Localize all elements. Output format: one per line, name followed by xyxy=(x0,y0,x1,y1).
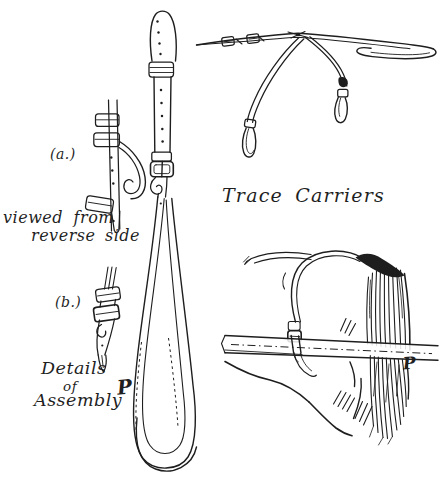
carrier-strap-right xyxy=(306,37,348,123)
long-loop xyxy=(134,197,197,471)
backband-strap xyxy=(197,32,436,59)
buckle xyxy=(151,162,174,177)
tail-upper xyxy=(356,254,410,350)
punch-holes xyxy=(160,89,164,143)
knot xyxy=(338,77,347,87)
folded-loop xyxy=(119,142,145,199)
label-detail-a: (a.) xyxy=(50,147,76,162)
keeper xyxy=(247,34,260,44)
carrier-strap-arch xyxy=(244,251,364,342)
illustration-page: (a.) viewed from reverse side (b.) Detai… xyxy=(0,0,439,480)
keeper xyxy=(96,114,120,127)
carrier-loop xyxy=(335,98,348,123)
keeper xyxy=(94,133,120,147)
figure-title: Trace Carriers xyxy=(222,186,385,206)
strap-end-loop xyxy=(357,48,436,59)
punch-holes xyxy=(156,20,161,55)
horse-croup-illustration xyxy=(222,251,439,445)
keeper xyxy=(93,304,120,322)
keeper xyxy=(244,119,256,128)
carrier-strap-left xyxy=(242,38,303,158)
artist-monogram: P xyxy=(116,376,134,399)
strap-tip xyxy=(244,253,312,265)
strap-fold xyxy=(151,177,167,197)
caption-details: Details xyxy=(41,359,107,377)
keeper xyxy=(338,89,348,97)
keeper xyxy=(149,62,174,77)
caption-assembly: Assembly xyxy=(34,391,122,409)
trace-carriers-illustration xyxy=(197,32,436,158)
stitching xyxy=(169,338,179,427)
detail-b-illustration xyxy=(93,267,121,372)
artist-monogram: P xyxy=(402,355,417,374)
caption-reverse-side: reverse side xyxy=(31,228,140,245)
main-strap-illustration xyxy=(134,11,197,471)
keeper xyxy=(152,152,172,161)
caption-viewed-from: viewed from xyxy=(3,210,114,227)
label-detail-b: (b.) xyxy=(55,295,81,310)
